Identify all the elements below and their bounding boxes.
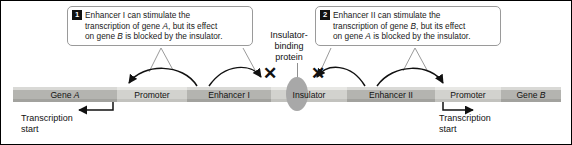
dna-segment-enhancer-1-label: Enhancer I	[208, 90, 250, 100]
dna-segment-enhancer-1: Enhancer I	[187, 87, 271, 102]
dna-segment-enhancer-2: Enhancer II	[347, 87, 435, 102]
dna-segment-insulator: Insulator	[271, 87, 347, 102]
transcription-start-right-label: Transcription start	[439, 113, 535, 136]
callout-2-number-badge: 2	[320, 10, 330, 20]
callout-2-line-3b: is blocked by the insulator.	[371, 31, 471, 41]
dna-segment-promoter-b: Promoter	[435, 87, 501, 102]
callout-2-text: Enhancer II can stimulate the transcript…	[333, 10, 470, 42]
callout-1-line-3b: is blocked by the insulator.	[123, 31, 223, 41]
callout-1-text: Enhancer I can stimulate the transcripti…	[85, 10, 222, 42]
protein-label-line-2: binding	[274, 41, 303, 51]
dna-segment-gene-b-label: Gene B	[516, 90, 545, 100]
dna-segment-gene-a: Gene A	[13, 87, 117, 102]
diagram-canvas: 1 Enhancer I can stimulate the transcrip…	[1, 1, 571, 144]
callout-2-line-1: Enhancer II can stimulate the	[333, 10, 440, 20]
callout-1-line-2a: transcription of gene	[85, 21, 162, 31]
callout-enhancer-2: 2 Enhancer II can stimulate the transcri…	[315, 6, 501, 46]
insulator-binding-protein-label: Insulator- binding protein	[253, 30, 325, 64]
dna-segment-gene-a-label: Gene A	[50, 90, 79, 100]
x-block-right-icon: ✕	[311, 65, 325, 82]
x-block-left-icon: ✕	[263, 65, 277, 82]
transcription-start-right-line-1: Transcription	[439, 113, 491, 123]
callout-1-line-1: Enhancer I can stimulate the	[85, 10, 190, 20]
callout-2-line-2b: , but its effect	[416, 21, 465, 31]
protein-label-line-1: Insulator-	[270, 30, 308, 40]
dna-segment-enhancer-2-label: Enhancer II	[369, 90, 413, 100]
transcription-start-left-line-1: Transcription	[21, 113, 73, 123]
dna-segment-promoter-a: Promoter	[117, 87, 187, 102]
callout-1-number-badge: 1	[72, 10, 82, 20]
dna-segment-promoter-b-label: Promoter	[450, 90, 485, 100]
callout-1-line-3a: on gene	[85, 31, 117, 41]
transcription-start-left-label: Transcription start	[21, 113, 113, 136]
transcription-start-left-line-2: start	[21, 124, 39, 134]
callout-2-line-3a: on gene	[333, 31, 365, 41]
transcription-start-right-line-2: start	[439, 124, 457, 134]
dna-segment-promoter-a-label: Promoter	[134, 90, 169, 100]
dna-segment-gene-b: Gene B	[501, 87, 561, 102]
dna-segment-insulator-label: Insulator	[293, 90, 326, 100]
callout-enhancer-1: 1 Enhancer I can stimulate the transcrip…	[67, 6, 253, 46]
callout-2-line-2a: transcription of gene	[333, 21, 410, 31]
callout-1-line-2b: , but its effect	[168, 21, 217, 31]
